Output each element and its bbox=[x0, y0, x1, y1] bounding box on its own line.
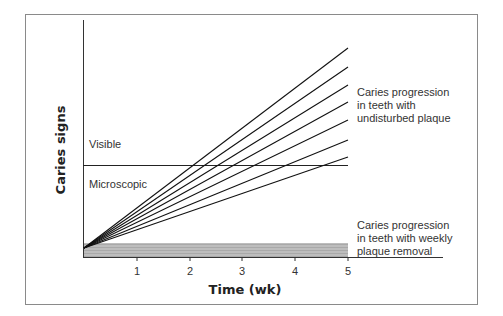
x-tick-label: 5 bbox=[345, 265, 351, 277]
undisturbed-plaque-lines bbox=[84, 48, 348, 248]
weekly-removal-annotation: Caries progression in teeth with weekly … bbox=[357, 219, 477, 258]
visible-zone-label: Visible bbox=[89, 138, 121, 150]
x-tick-label: 4 bbox=[292, 265, 298, 277]
x-axis-label: Time (wk) bbox=[209, 282, 282, 297]
chart-plot bbox=[0, 0, 503, 316]
undisturbed-plaque-annotation: Caries progression in teeth with undistu… bbox=[357, 86, 477, 125]
weekly-removal-band bbox=[84, 243, 348, 257]
microscopic-zone-label: Microscopic bbox=[89, 178, 147, 190]
x-tick-label: 2 bbox=[187, 265, 193, 277]
x-tick-label: 1 bbox=[134, 265, 140, 277]
y-axis-label: Caries signs bbox=[53, 106, 68, 195]
x-tick-label: 3 bbox=[239, 265, 245, 277]
